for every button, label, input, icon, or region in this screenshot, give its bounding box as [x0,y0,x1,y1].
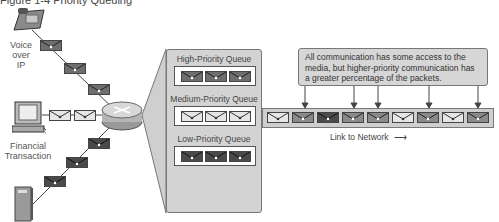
ip-phone-icon [10,6,46,36]
packet-envelope-icon [205,71,227,82]
packet-envelope-icon [66,157,88,168]
packet-envelope-icon [49,110,71,121]
server-icon [14,186,34,222]
packet-envelope-icon [181,151,203,162]
low-priority-queue [174,146,256,166]
packet-envelope-icon [74,110,96,121]
medium-priority-queue [174,106,256,126]
voip-label-line: IP [4,60,38,70]
financial-transaction-label: Financial Transaction [0,141,56,161]
link-to-network-label: Link to Network ⟶ [330,132,407,142]
packet-envelope-icon [181,71,203,82]
packet-envelope-icon [392,112,414,123]
voip-label: Voice over IP [4,40,38,70]
packet-envelope-icon [442,112,464,123]
workstation-icon [12,100,46,142]
explanation-callout: All communication has some access to the… [298,48,488,86]
right-arrow-icon: ⟶ [394,132,407,142]
financial-label-line: Transaction [0,151,56,161]
packet-envelope-icon [205,111,227,122]
financial-label-line: Financial [0,141,56,151]
packet-envelope-icon [44,176,66,187]
packet-envelope-icon [229,71,251,82]
packet-envelope-icon [317,112,339,123]
voip-label-line: Voice [4,40,38,50]
packet-envelope-icon [292,112,314,123]
packet-envelope-icon [342,112,364,123]
voip-label-line: over [4,50,38,60]
packet-envelope-icon [205,151,227,162]
packet-envelope-icon [417,112,439,123]
packet-envelope-icon [229,151,251,162]
packet-envelope-icon [267,112,289,123]
packet-envelope-icon [88,84,110,95]
packet-envelope-icon [229,111,251,122]
packet-envelope-icon [181,111,203,122]
medium-priority-queue-title: Medium-Priority Queue [167,94,261,104]
router-icon [100,100,144,136]
packet-envelope-icon [64,63,86,74]
priority-queue-panel: High-Priority Queue Medium-Priority Queu… [166,49,262,213]
high-priority-queue [174,66,256,86]
low-priority-queue-title: Low-Priority Queue [167,134,261,144]
packet-envelope-icon [40,40,62,51]
packet-envelope-icon [467,112,489,123]
network-link-bar [262,108,494,128]
high-priority-queue-title: High-Priority Queue [167,54,261,64]
packet-envelope-icon [88,138,110,149]
link-label-text: Link to Network [330,132,389,142]
packet-envelope-icon [367,112,389,123]
